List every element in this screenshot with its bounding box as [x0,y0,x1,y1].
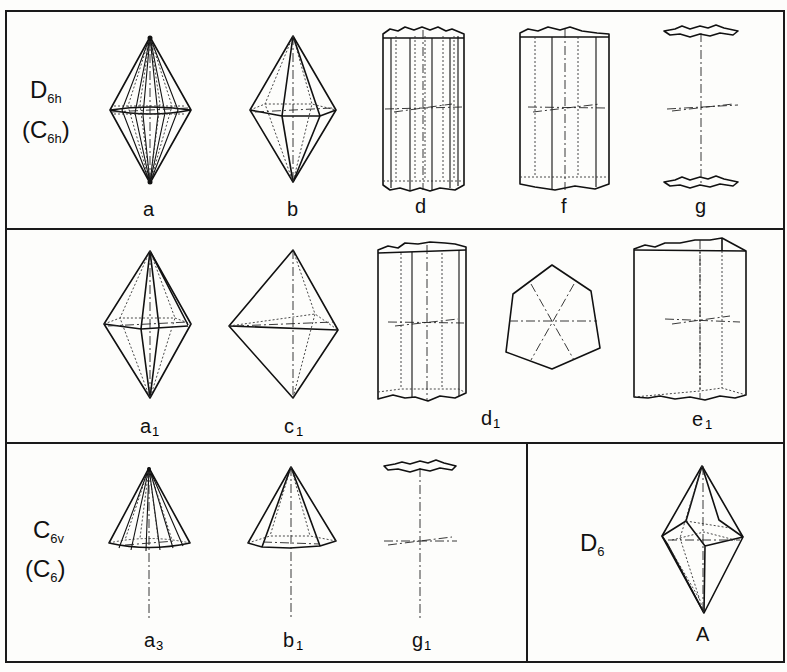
svg-text:a: a [143,198,155,220]
svg-text:1: 1 [493,416,500,431]
form-d-dihexagonal-prism: d [383,27,464,217]
svg-text:1: 1 [424,638,431,653]
svg-text:b: b [283,629,294,651]
svg-text:D6: D6 [580,529,605,559]
crystal-forms-figure: D6h (C6h) a b d [0,0,787,672]
form-g1-pedion: g 1 [384,460,457,653]
svg-text:3: 3 [156,638,163,653]
form-ditrigonal-section [506,265,600,369]
svg-text:A: A [696,623,710,645]
form-a-dihexagonal-bipyramid: a [110,36,191,221]
form-g-pinacoid: g [664,25,738,217]
svg-text:f: f [561,195,567,217]
svg-text:1: 1 [705,417,712,432]
svg-text:g: g [412,629,423,651]
svg-text:d: d [415,195,426,217]
svg-text:D6h: D6h [30,76,62,106]
svg-text:1: 1 [296,424,303,439]
svg-text:(C6h): (C6h) [22,116,70,146]
form-b1-hexagonal-pyramid: b 1 [248,467,336,653]
svg-text:e: e [692,408,703,430]
form-b-hexagonal-bipyramid: b [250,36,336,220]
form-e1-trigonal-prism: e 1 [634,238,746,432]
form-a1-ditrigonal-bipyramid: a 1 [104,251,191,439]
svg-text:(C6): (C6) [25,555,66,585]
svg-text:1: 1 [296,638,303,653]
form-d1-ditrigonal-prism: d 1 [378,242,500,431]
svg-text:1: 1 [152,424,159,439]
form-f-hexagonal-prism: f [520,27,609,217]
svg-text:g: g [695,195,706,217]
row3-right-group-label: D6 [580,529,605,559]
row1-group-label: D6h (C6h) [22,76,70,146]
row3-group-label: C6v (C6) [25,516,66,585]
form-A-hexagonal-trapezohedron: A [662,466,743,645]
svg-text:b: b [287,198,298,220]
svg-text:C6v: C6v [33,516,65,546]
svg-text:a: a [140,415,152,437]
form-c1-trigonal-bipyramid: c 1 [229,250,338,439]
svg-text:c: c [284,415,294,437]
form-a3-dihexagonal-pyramid: a 3 [109,467,190,653]
svg-text:d: d [481,407,492,429]
svg-text:a: a [144,629,156,651]
